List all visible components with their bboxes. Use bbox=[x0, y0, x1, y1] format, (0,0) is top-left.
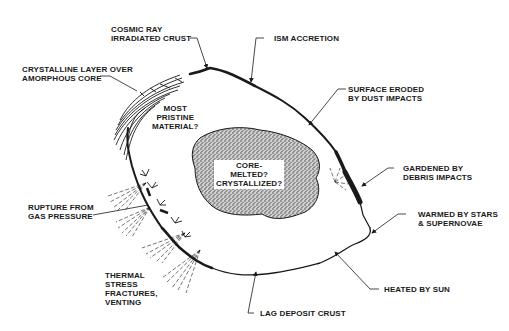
label-line: CRYSTALLIZED? bbox=[216, 179, 282, 188]
label-thermal-stress: THERMAL STRESS FRACTURES, VENTING bbox=[105, 271, 158, 307]
label-line: WARMED BY STARS bbox=[418, 210, 498, 219]
label-line: VENTING bbox=[105, 298, 158, 307]
label-most-pristine: MOST PRISTINE MATERIAL? bbox=[152, 104, 199, 131]
label-core: CORE- MELTED? CRYSTALLIZED? bbox=[214, 160, 284, 189]
label-line: THERMAL bbox=[105, 271, 158, 280]
label-line: GARDENED BY bbox=[403, 164, 472, 173]
label-line: STRESS bbox=[105, 280, 158, 289]
label-line: COSMIC RAY bbox=[111, 25, 191, 34]
label-line: MOST bbox=[152, 104, 199, 113]
label-crystalline-layer: CRYSTALLINE LAYER OVER AMORPHOUS CORE bbox=[22, 65, 133, 83]
label-line: GAS PRESSURE bbox=[28, 212, 94, 221]
label-line: PRISTINE bbox=[152, 113, 199, 122]
label-cosmic-ray-crust: COSMIC RAY IRRADIATED CRUST bbox=[111, 25, 191, 43]
label-line: CORE- bbox=[216, 161, 282, 170]
label-line: AMORPHOUS CORE bbox=[22, 74, 133, 83]
label-lag-deposit: LAG DEPOSIT CRUST bbox=[260, 309, 346, 318]
label-line: CRYSTALLINE LAYER OVER bbox=[22, 65, 133, 74]
label-ism-accretion: ISM ACCRETION bbox=[274, 34, 339, 43]
label-line: BY DUST IMPACTS bbox=[348, 94, 424, 103]
label-line: MELTED? bbox=[216, 170, 282, 179]
label-line: LAG DEPOSIT CRUST bbox=[260, 309, 346, 318]
label-gardened: GARDENED BY DEBRIS IMPACTS bbox=[403, 164, 472, 182]
label-line: ISM ACCRETION bbox=[274, 34, 339, 43]
label-line: DEBRIS IMPACTS bbox=[403, 173, 472, 182]
label-surface-eroded: SURFACE ERODED BY DUST IMPACTS bbox=[348, 85, 424, 103]
label-line: FRACTURES, bbox=[105, 289, 158, 298]
label-line: MATERIAL? bbox=[152, 122, 199, 131]
label-line: IRRADIATED CRUST bbox=[111, 34, 191, 43]
label-warmed: WARMED BY STARS & SUPERNOVAE bbox=[418, 210, 498, 228]
label-rupture: RUPTURE FROM GAS PRESSURE bbox=[28, 203, 94, 221]
label-line: SURFACE ERODED bbox=[348, 85, 424, 94]
label-line: RUPTURE FROM bbox=[28, 203, 94, 212]
label-line: HEATED BY SUN bbox=[384, 285, 450, 294]
label-heated-by-sun: HEATED BY SUN bbox=[384, 285, 450, 294]
label-line: & SUPERNOVAE bbox=[418, 219, 498, 228]
